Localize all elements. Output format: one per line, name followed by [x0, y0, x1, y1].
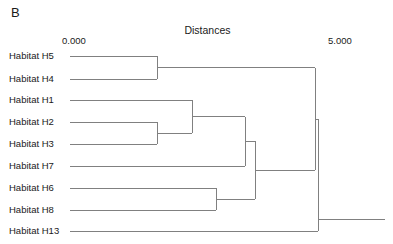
dendrogram-figure: B Distances 0.000 5.000 Habitat H5Habita… [0, 0, 393, 244]
dendrogram-branches [70, 56, 385, 231]
dendrogram-tree [0, 0, 393, 244]
